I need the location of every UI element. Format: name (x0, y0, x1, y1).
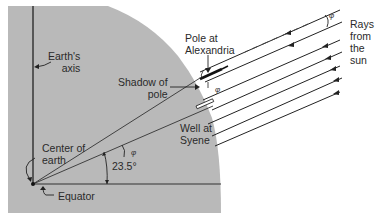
ray-arrowheads (285, 30, 339, 95)
center-of-earth-label: Center of earth (42, 142, 85, 166)
equator-label: Equator (58, 190, 95, 202)
rays-from-sun-label: Rays from the sun (350, 18, 374, 66)
well-at-syene-label: Well at Syene (180, 122, 212, 146)
center-of-earth-dot (31, 182, 35, 186)
shadow-of-pole-label: Shadow of pole (118, 76, 168, 100)
shadow-of-pole-line (222, 66, 228, 69)
earths-axis-label: Earth's axis (48, 50, 80, 74)
phi-label-center: φ (131, 148, 136, 157)
phi-label-top: φ (329, 11, 334, 20)
pole-at-alexandria-label: Pole at Alexandria (185, 32, 235, 56)
latitude-angle-label: 23.5° (112, 160, 137, 172)
eratosthenes-diagram: Earth's axis Shadow of pole Pole at Alex… (0, 0, 376, 221)
phi-label-pole: φ (215, 85, 220, 94)
sun-rays (200, 10, 342, 146)
